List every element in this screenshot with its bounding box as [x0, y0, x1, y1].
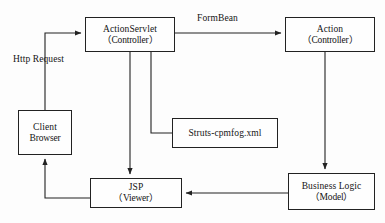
node-business-logic-line2: （Model） [310, 192, 353, 203]
node-action[interactable]: Action （Controller） [285, 17, 375, 52]
node-struts-config-file-label: Struts-cpmfog.xml [188, 128, 261, 139]
node-actionservlet-line1: ActionServlet [103, 24, 157, 35]
node-client-browser[interactable]: Client Browser [18, 110, 72, 155]
node-action-line1: Action [317, 24, 343, 35]
edge-label-http-request: Http Request [13, 54, 64, 64]
diagram-canvas: ActionServlet （Controller） Action （Contr… [0, 0, 385, 223]
node-business-logic-line1: Business Logic [302, 181, 362, 192]
node-actionservlet-line2: （Controller） [102, 35, 159, 46]
node-jsp-line2: （Viewer） [113, 193, 159, 204]
node-jsp-line1: JSP [129, 182, 144, 193]
edge-label-formbean: FormBean [197, 13, 238, 23]
node-struts-config-file[interactable]: Struts-cpmfog.xml [172, 118, 278, 148]
node-action-line2: （Controller） [302, 35, 359, 46]
edge-jsp-to-client [45, 159, 90, 198]
node-client-browser-line2: Browser [30, 133, 61, 144]
node-jsp[interactable]: JSP （Viewer） [90, 178, 182, 208]
edge-client-to-actionservlet [45, 33, 81, 110]
node-client-browser-line1: Client [33, 122, 57, 133]
node-business-logic[interactable]: Business Logic （Model） [288, 173, 375, 210]
edge-actionservlet-to-struts [151, 52, 172, 133]
node-actionservlet[interactable]: ActionServlet （Controller） [85, 17, 175, 52]
